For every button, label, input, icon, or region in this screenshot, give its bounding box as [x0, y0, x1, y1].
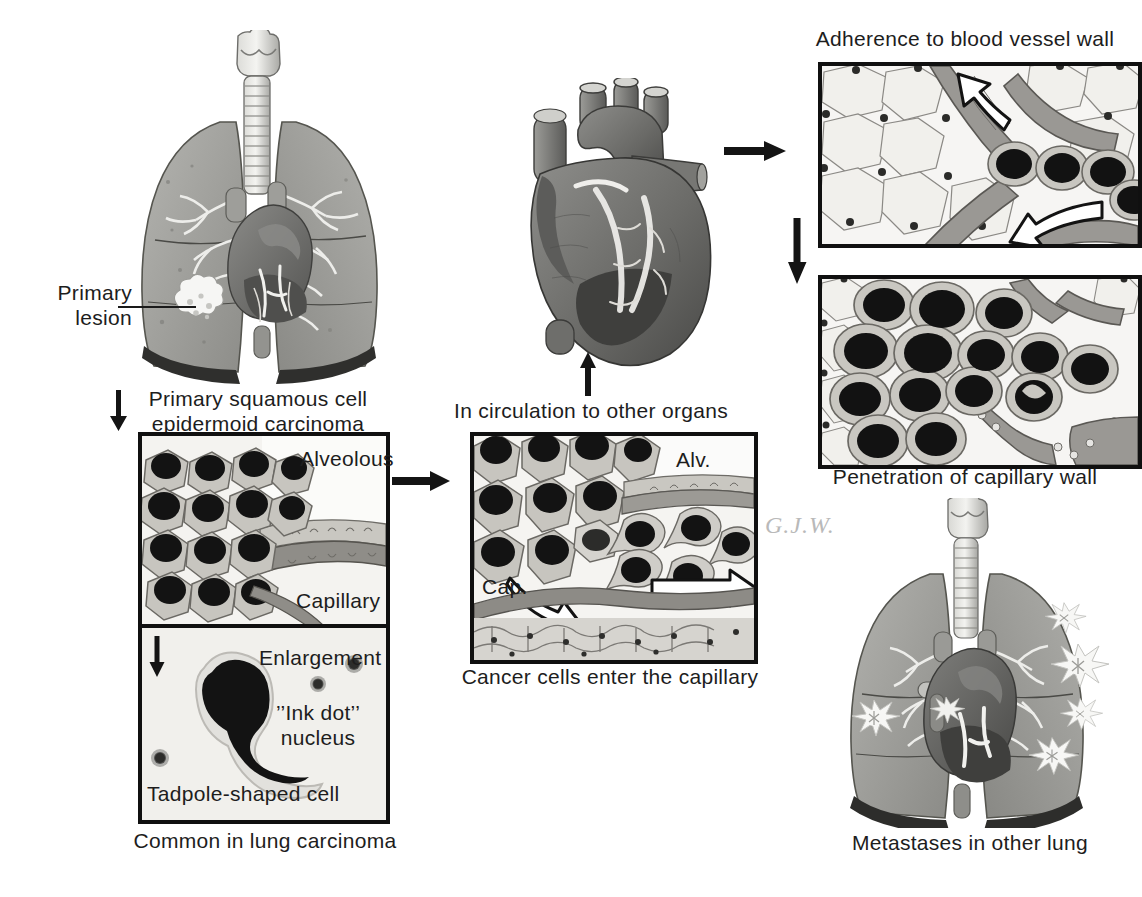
capillary-label: Capillary: [296, 588, 380, 613]
primary-carcinoma-caption: Primary squamous cell epidermoid carcino…: [93, 386, 423, 436]
lungs-with-metastases-illustration: [830, 498, 1130, 828]
panel-penetration: [818, 275, 1142, 469]
common-in-lung-caption: Common in lung carcinoma: [105, 828, 425, 853]
alv-short-label: Alv.: [676, 447, 711, 472]
panel-adherence: [818, 62, 1142, 248]
artist-signature: G.J.W.: [765, 512, 835, 539]
primary-lesion-leader-line: [118, 306, 196, 308]
in-circulation-caption: In circulation to other organs: [426, 398, 756, 423]
lungs-with-primary-lesion-illustration: [108, 30, 408, 390]
penetration-caption: Penetration of capillary wall: [795, 464, 1135, 489]
adherence-caption: Adherence to blood vessel wall: [795, 26, 1135, 51]
arrow-enlargement: [148, 636, 166, 678]
arrow-adherence-to-penetration: [786, 218, 808, 286]
arrow-heart-to-adherence: [724, 140, 788, 162]
ink-dot-nucleus-label: ’’Ink dot’’ nucleus: [258, 700, 378, 750]
arrow-lung-to-alveolus: [108, 390, 128, 432]
arrow-alveolus-to-capillary: [392, 470, 452, 492]
arrow-capillary-to-heart: [578, 352, 598, 396]
cap-short-label: Cap.: [482, 574, 528, 599]
cancer-cells-enter-caption: Cancer cells enter the capillary: [435, 664, 785, 689]
alveolous-label: Alveolous: [300, 446, 394, 471]
panel-cancer-cells-enter: [470, 432, 758, 664]
tadpole-cell-label: Tadpole-shaped cell: [147, 781, 340, 806]
enlargement-label: Enlargement: [259, 645, 381, 670]
heart-illustration: [492, 78, 720, 378]
metastasis-diagram: Primary lesion Primary squamous cell epi…: [0, 0, 1142, 897]
metastases-caption: Metastases in other lung: [805, 830, 1135, 855]
primary-lesion-label: Primary lesion: [22, 280, 132, 330]
